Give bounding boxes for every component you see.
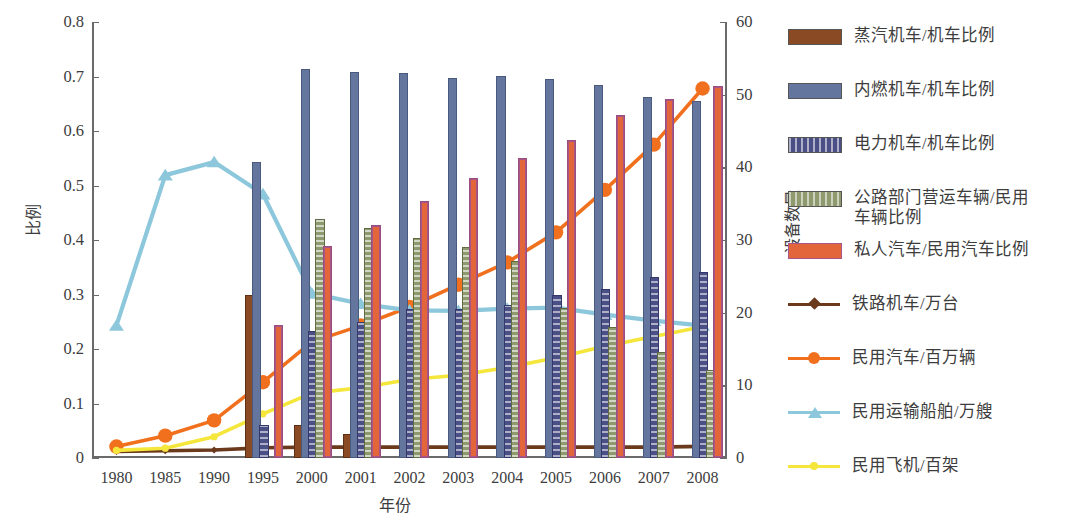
y-axis-ticks-left: 00.10.20.30.40.50.60.70.8 bbox=[36, 0, 84, 532]
line-marker bbox=[695, 81, 709, 95]
x-tick-label: 2008 bbox=[677, 470, 729, 486]
legend-marker-circle-small bbox=[810, 462, 818, 470]
x-tick-label: 2006 bbox=[579, 470, 631, 486]
chart-figure: 比例 设备数量 年份 00.10.20.30.40.50.60.70.8 010… bbox=[0, 0, 1075, 532]
y-tick-label-left: 0 bbox=[40, 450, 84, 467]
legend-marker-triangle bbox=[808, 407, 822, 418]
x-axis-label: 年份 bbox=[0, 492, 790, 516]
x-tick-label: 2000 bbox=[286, 470, 338, 486]
y-tick-label-right: 50 bbox=[736, 87, 776, 104]
line-marker bbox=[113, 447, 120, 454]
bar bbox=[713, 86, 722, 458]
legend-item[interactable]: 私人汽车/民用汽车比例 bbox=[788, 240, 1029, 260]
legend-label: 电力机车/机车比例 bbox=[854, 134, 995, 154]
y-tick-label-left: 0.6 bbox=[40, 123, 84, 140]
line-marker bbox=[162, 445, 169, 452]
tick-mark-left bbox=[92, 458, 99, 459]
legend-swatch-bar bbox=[788, 191, 842, 207]
bar bbox=[259, 425, 268, 458]
legend-swatch-line bbox=[788, 351, 840, 365]
legend-item[interactable]: 内燃机车/机车比例 bbox=[788, 80, 995, 100]
x-tick-label: 2005 bbox=[530, 470, 582, 486]
legend-label: 私人汽车/民用汽车比例 bbox=[854, 240, 1029, 260]
legend-label: 民用汽车/百万辆 bbox=[852, 348, 976, 368]
bar bbox=[616, 115, 625, 458]
x-tick-label: 2004 bbox=[481, 470, 533, 486]
legend-item[interactable]: 民用运输船舶/万艘 bbox=[788, 402, 993, 422]
bar bbox=[371, 225, 380, 458]
x-tick-label: 1990 bbox=[188, 470, 240, 486]
legend-marker-diamond bbox=[808, 297, 821, 310]
legend-label: 内燃机车/机车比例 bbox=[854, 80, 995, 100]
y-axis-ticks-right: 0102030405060 bbox=[736, 0, 780, 532]
line-marker bbox=[109, 319, 124, 331]
bar bbox=[323, 246, 332, 458]
y-tick-label-left: 0.4 bbox=[40, 232, 84, 249]
x-tick-label: 2003 bbox=[432, 470, 484, 486]
y-tick-label-left: 0.5 bbox=[40, 178, 84, 195]
legend-label: 公路部门营运车辆/民用 车辆比例 bbox=[854, 188, 1029, 228]
legend-marker-circle bbox=[808, 352, 820, 364]
y-tick-label-left: 0.3 bbox=[40, 287, 84, 304]
bar bbox=[567, 140, 576, 458]
bar bbox=[252, 162, 261, 458]
y-tick-label-left: 0.7 bbox=[40, 69, 84, 86]
bar bbox=[469, 178, 478, 458]
y-tick-label-right: 30 bbox=[736, 232, 776, 249]
legend-swatch-line bbox=[788, 297, 840, 311]
x-tick-label: 1995 bbox=[237, 470, 289, 486]
x-tick-label: 2007 bbox=[628, 470, 680, 486]
x-tick-label: 2001 bbox=[335, 470, 387, 486]
bar bbox=[665, 99, 674, 458]
legend-item[interactable]: 民用汽车/百万辆 bbox=[788, 348, 976, 368]
legend-swatch-bar bbox=[788, 83, 842, 99]
y-tick-label-left: 0.8 bbox=[40, 14, 84, 31]
x-tick-label: 1980 bbox=[90, 470, 142, 486]
line-marker bbox=[158, 428, 172, 442]
y-tick-label-right: 60 bbox=[736, 14, 776, 31]
legend-label: 蒸汽机车/机车比例 bbox=[854, 26, 995, 46]
y-tick-label-right: 10 bbox=[736, 377, 776, 394]
legend-item[interactable]: 民用飞机/百架 bbox=[788, 456, 959, 476]
y-tick-label-left: 0.1 bbox=[40, 396, 84, 413]
y-tick-label-right: 20 bbox=[736, 305, 776, 322]
legend-label: 民用飞机/百架 bbox=[852, 456, 959, 476]
line-marker bbox=[211, 433, 218, 440]
legend-swatch-line bbox=[788, 459, 840, 473]
legend: 蒸汽机车/机车比例内燃机车/机车比例电力机车/机车比例公路部门营运车辆/民用 车… bbox=[788, 12, 1075, 492]
legend-swatch-line bbox=[788, 405, 840, 419]
legend-item[interactable]: 电力机车/机车比例 bbox=[788, 134, 995, 154]
legend-label: 民用运输船舶/万艘 bbox=[852, 402, 993, 422]
line-marker bbox=[207, 413, 221, 427]
legend-swatch-bar bbox=[788, 137, 842, 153]
legend-item[interactable]: 蒸汽机车/机车比例 bbox=[788, 26, 995, 46]
y-tick-label-left: 0.2 bbox=[40, 341, 84, 358]
plot-area bbox=[92, 22, 727, 458]
legend-item[interactable]: 铁路机车/万台 bbox=[788, 294, 959, 314]
line-marker bbox=[211, 446, 218, 453]
bar bbox=[518, 158, 527, 458]
x-tick-label: 1985 bbox=[139, 470, 191, 486]
legend-label: 铁路机车/万台 bbox=[852, 294, 959, 314]
legend-swatch-bar bbox=[788, 243, 842, 259]
tick-mark-right bbox=[720, 458, 727, 459]
legend-item[interactable]: 公路部门营运车辆/民用 车辆比例 bbox=[788, 188, 1029, 228]
bar bbox=[274, 325, 283, 458]
legend-swatch-bar bbox=[788, 29, 842, 45]
bar bbox=[420, 201, 429, 458]
x-tick-label: 2002 bbox=[384, 470, 436, 486]
y-tick-label-right: 40 bbox=[736, 159, 776, 176]
y-tick-label-right: 0 bbox=[736, 450, 776, 467]
